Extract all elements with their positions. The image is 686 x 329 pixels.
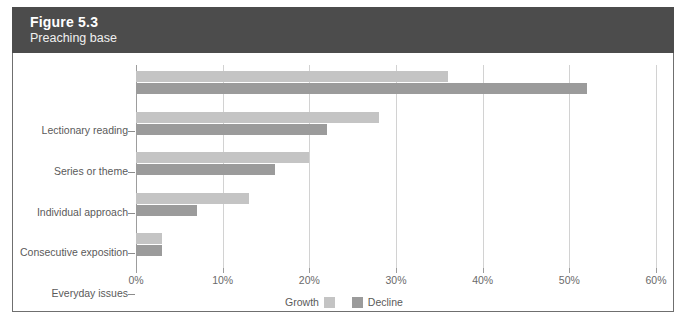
- gridline: [656, 65, 657, 268]
- bar-group: [136, 65, 656, 106]
- category-label: Consecutive exposition: [20, 246, 128, 258]
- bar-group: [136, 187, 656, 228]
- x-axis-label: 0%: [128, 274, 143, 286]
- category-tick: [128, 253, 135, 254]
- x-axis-label: 60%: [645, 274, 666, 286]
- bar-growth: [136, 152, 309, 163]
- bar-decline: [136, 245, 162, 256]
- category-tick: [128, 172, 135, 173]
- legend-label-decline: Decline: [368, 296, 403, 308]
- chart-legend: Growth Decline: [13, 296, 675, 308]
- x-axis-label: 30%: [385, 274, 406, 286]
- bar-growth: [136, 193, 249, 204]
- x-axis-label: 20%: [299, 274, 320, 286]
- legend-item-decline: Decline: [352, 296, 403, 308]
- bar-group: [136, 146, 656, 187]
- bar-group: [136, 106, 656, 147]
- chart-frame: Lectionary readingSeries or themeIndivid…: [12, 53, 674, 312]
- category-label: Lectionary reading: [42, 124, 128, 136]
- figure-header: Figure 5.3 Preaching base: [12, 7, 674, 53]
- category-tick: [128, 294, 135, 295]
- category-label: Series or theme: [54, 165, 128, 177]
- x-axis-label: 50%: [559, 274, 580, 286]
- x-axis-tick: [569, 268, 570, 273]
- figure-subtitle: Preaching base: [30, 31, 674, 46]
- category-axis-labels: Lectionary readingSeries or themeIndivid…: [13, 111, 128, 314]
- bar-growth: [136, 112, 379, 123]
- x-axis-tick: [656, 268, 657, 273]
- bar-rows: [136, 65, 656, 268]
- bar-decline: [136, 83, 587, 94]
- x-axis-label: 10%: [212, 274, 233, 286]
- category-tick: [128, 131, 135, 132]
- bar-growth: [136, 71, 448, 82]
- x-axis-tick: [223, 268, 224, 273]
- plot-area: [136, 65, 656, 268]
- figure-number: Figure 5.3: [30, 14, 674, 30]
- x-axis-tick: [396, 268, 397, 273]
- x-axis-tick: [483, 268, 484, 273]
- x-axis-tick: [309, 268, 310, 273]
- x-axis-label: 40%: [472, 274, 493, 286]
- category-tick: [128, 213, 135, 214]
- legend-item-growth: Growth: [285, 296, 335, 308]
- bar-decline: [136, 124, 327, 135]
- x-axis-tick: [136, 268, 137, 273]
- legend-swatch-decline: [352, 297, 363, 308]
- bar-decline: [136, 164, 275, 175]
- legend-swatch-growth: [324, 297, 335, 308]
- category-label: Individual approach: [37, 206, 128, 218]
- bar-decline: [136, 205, 197, 216]
- x-axis-labels: 0%10%20%30%40%50%60%: [136, 274, 656, 288]
- bar-growth: [136, 233, 162, 244]
- legend-label-growth: Growth: [285, 296, 319, 308]
- figure-container: Figure 5.3 Preaching base Lectionary rea…: [12, 7, 674, 312]
- bar-group: [136, 227, 656, 268]
